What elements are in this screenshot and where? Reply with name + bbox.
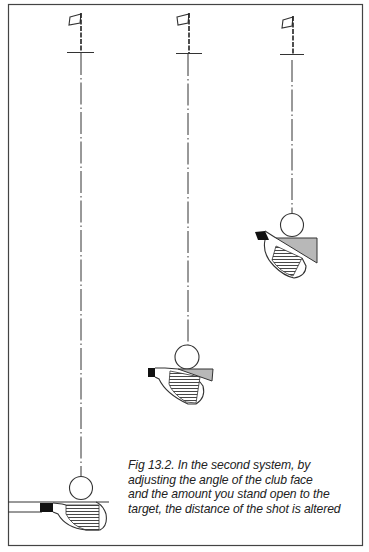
position-moderate	[148, 13, 213, 404]
position-square	[8, 13, 109, 530]
golf-ball	[281, 214, 304, 237]
position-open	[255, 16, 317, 278]
club-icon	[8, 502, 109, 530]
caption-line-1: Fig 13.2. In the second system, by	[128, 458, 364, 473]
club-icon	[148, 368, 213, 404]
caption-line-2: adjusting the angle of the club face	[128, 473, 364, 488]
flag-icon	[280, 16, 304, 55]
flag-icon	[176, 13, 202, 54]
golf-ball	[70, 477, 93, 500]
caption-line-3: and the amount you stand open to the	[128, 487, 364, 502]
figure-caption: Fig 13.2. In the second system, by adjus…	[128, 458, 364, 516]
flag-icon	[67, 13, 94, 53]
caption-line-4: target, the distance of the shot is alte…	[128, 502, 364, 517]
golf-ball	[175, 345, 199, 369]
club-icon	[255, 231, 317, 278]
